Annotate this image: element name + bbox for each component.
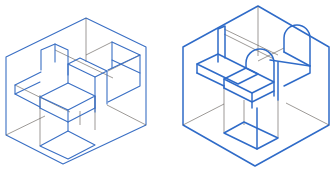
visible-edges <box>197 25 310 149</box>
isometric-figure-right <box>166 0 333 176</box>
right-drawing <box>166 0 333 176</box>
isometric-figure-left <box>0 0 166 176</box>
construction-lines <box>183 6 329 138</box>
visible-edges <box>15 42 140 159</box>
left-drawing <box>0 0 166 176</box>
